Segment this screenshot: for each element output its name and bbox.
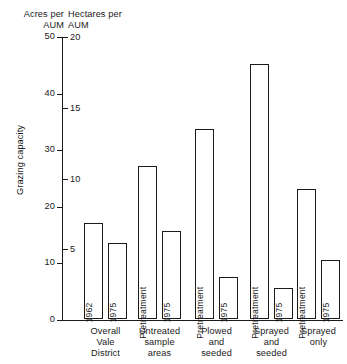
x-axis-line [62, 320, 343, 321]
right-tick-label-20: 20 [70, 33, 80, 42]
grazing-capacity-bar-chart: Acres per AUM Hectares per AUM Grazing c… [0, 0, 347, 364]
bar[interactable]: Pretreatment [138, 166, 157, 319]
plot-area: 01020304050 5101520 19621975Pretreatment… [62, 37, 343, 320]
bar[interactable]: 1975 [219, 277, 238, 319]
right-tick-10 [63, 179, 68, 180]
bar[interactable]: 1975 [162, 231, 181, 319]
y-axis-title: Grazing capacity [15, 95, 25, 225]
bar[interactable]: Pretreatment [297, 189, 316, 319]
left-tick-40 [57, 94, 63, 95]
bar[interactable]: 1975 [108, 243, 127, 319]
right-tick-15 [63, 108, 68, 109]
left-tick-10 [57, 263, 63, 264]
category-label: Sprayed only [279, 326, 347, 348]
left-tick-0 [57, 320, 63, 321]
bar[interactable]: Pretreatment [195, 129, 214, 319]
bar[interactable]: Pretreatment [250, 64, 269, 319]
right-tick-label-10: 10 [70, 175, 80, 184]
bar[interactable]: 1975 [274, 288, 293, 319]
left-tick-label-0: 0 [50, 315, 55, 324]
right-tick-label-15: 15 [70, 104, 80, 113]
left-tick-20 [57, 207, 63, 208]
left-tick-label-10: 10 [45, 258, 55, 267]
left-axis-caption: Acres per AUM [8, 9, 64, 31]
left-tick-30 [57, 150, 63, 151]
left-tick-label-40: 40 [45, 89, 55, 98]
right-tick-label-5: 5 [70, 245, 75, 254]
bar[interactable]: 1975 [321, 260, 340, 319]
left-tick-label-20: 20 [45, 202, 55, 211]
right-axis-caption: Hectares per AUM [68, 9, 148, 31]
right-tick-5 [63, 249, 68, 250]
right-tick-20 [63, 37, 68, 38]
left-tick-label-30: 30 [45, 145, 55, 154]
left-tick-label-50: 50 [45, 32, 55, 41]
bar[interactable]: 1962 [84, 223, 103, 319]
